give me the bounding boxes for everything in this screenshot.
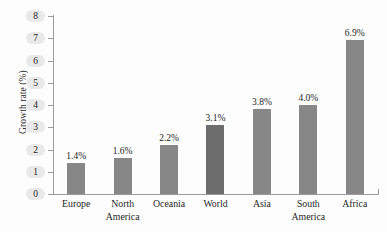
y-axis-tick-label: 5 bbox=[26, 77, 45, 89]
y-axis-tick bbox=[48, 194, 53, 195]
y-axis-tick-label: 4 bbox=[26, 99, 45, 111]
y-axis-tick-label: 7 bbox=[26, 32, 45, 44]
bar[interactable] bbox=[67, 163, 85, 194]
bar-value-label: 3.1% bbox=[206, 113, 226, 123]
bar-slot: 4.0% bbox=[285, 16, 331, 194]
plot-area: 1.4%1.6%2.2%3.1%3.8%4.0%6.9% bbox=[53, 16, 378, 194]
y-axis-tick-label: 0 bbox=[26, 188, 45, 200]
x-axis-label-line: America bbox=[278, 211, 338, 224]
bar-slot: 3.8% bbox=[239, 16, 285, 194]
bar-slot: 3.1% bbox=[192, 16, 238, 194]
bar-value-label: 4.0% bbox=[298, 93, 318, 103]
bar[interactable] bbox=[253, 109, 271, 194]
bar-value-label: 2.2% bbox=[159, 133, 179, 143]
x-axis-line bbox=[53, 194, 379, 195]
y-axis-tick-label: 1 bbox=[26, 166, 45, 178]
bar-value-label: 1.6% bbox=[113, 146, 133, 156]
y-axis-tick-label: 2 bbox=[26, 144, 45, 156]
bar[interactable] bbox=[206, 125, 224, 194]
bar[interactable] bbox=[346, 40, 364, 194]
bar[interactable] bbox=[299, 105, 317, 194]
bar-slot: 2.2% bbox=[146, 16, 192, 194]
bar-value-label: 1.4% bbox=[66, 151, 86, 161]
y-axis-tick-label: 6 bbox=[26, 55, 45, 67]
bar[interactable] bbox=[160, 145, 178, 194]
bar-slot: 1.6% bbox=[99, 16, 145, 194]
bar-slot: 6.9% bbox=[332, 16, 378, 194]
bar-value-label: 3.8% bbox=[252, 97, 272, 107]
bar-value-label: 6.9% bbox=[345, 28, 365, 38]
bar[interactable] bbox=[114, 158, 132, 194]
x-axis-label-line: Africa bbox=[325, 198, 385, 211]
y-axis-tick-label: 3 bbox=[26, 121, 45, 133]
x-axis-label: Africa bbox=[325, 198, 385, 211]
bar-slot: 1.4% bbox=[53, 16, 99, 194]
y-axis-tick-label: 8 bbox=[26, 10, 45, 22]
bar-chart: Growth rate (%) 012345678 1.4%1.6%2.2%3.… bbox=[0, 0, 387, 232]
x-axis-label-line: America bbox=[93, 211, 153, 224]
x-axis-end-tick bbox=[378, 189, 379, 195]
